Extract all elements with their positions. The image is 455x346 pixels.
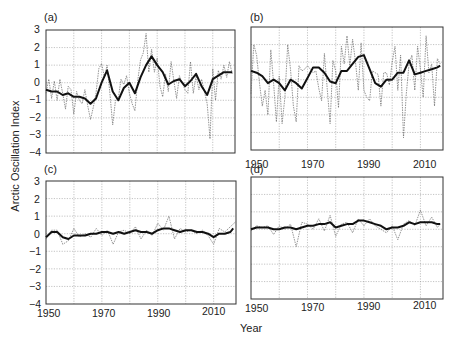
series-annual	[46, 216, 236, 244]
xtick-c-1970: 1970	[92, 307, 115, 319]
xtick-c-2010: 2010	[202, 305, 225, 317]
chart-canvas	[0, 0, 455, 346]
ytick-c-3: 3	[34, 175, 40, 187]
series-smoothed	[251, 55, 440, 90]
ytick-a-2: 2	[34, 41, 40, 53]
panel-a	[46, 30, 235, 153]
panel-label-b: (b)	[250, 11, 263, 23]
panel-b	[251, 27, 443, 150]
panel-d	[251, 177, 443, 299]
xtick-b-1970: 1970	[301, 158, 324, 170]
xtick-d-1950: 1950	[245, 302, 268, 314]
ytick-a-0: 0	[34, 76, 40, 88]
ytick-c-2: 2	[34, 193, 40, 205]
ytick-c-1: 1	[34, 210, 40, 222]
xtick-c-1990: 1990	[147, 307, 170, 319]
y-axis-label: Arctic Oscillation Index	[9, 91, 21, 221]
ytick-c-m2: −2	[29, 263, 41, 275]
panel-label-a: (a)	[44, 11, 57, 23]
ytick-a-m4: −4	[29, 146, 41, 158]
xtick-d-2010: 2010	[413, 299, 436, 311]
ytick-a-m3: −3	[29, 128, 41, 140]
xtick-b-1990: 1990	[357, 158, 380, 170]
ytick-c-m3: −3	[29, 280, 41, 292]
xtick-d-1970: 1970	[301, 301, 324, 313]
panel-c	[46, 181, 236, 304]
xtick-b-1950: 1950	[245, 158, 268, 170]
ytick-c-m1: −1	[29, 245, 41, 257]
xtick-b-2010: 2010	[413, 158, 436, 170]
panel-label-c: (c)	[44, 163, 57, 175]
xtick-d-1990: 1990	[357, 300, 380, 312]
xtick-c-1950: 1950	[37, 307, 60, 319]
ytick-a-m1: −1	[29, 93, 41, 105]
ytick-a-m2: −2	[29, 111, 41, 123]
ytick-c-0: 0	[34, 228, 40, 240]
ytick-a-1: 1	[34, 58, 40, 70]
ytick-a-3: 3	[34, 23, 40, 35]
x-axis-label: Year	[240, 322, 262, 334]
